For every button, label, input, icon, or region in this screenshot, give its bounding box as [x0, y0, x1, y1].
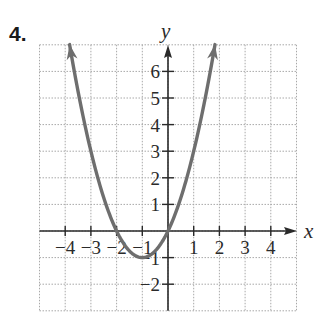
tick-marks: −4−3−2−11234−2−1123456 — [55, 61, 276, 295]
x-tick-label: 4 — [266, 237, 276, 258]
y-tick-label: 1 — [151, 194, 161, 215]
x-tick-label: 1 — [189, 237, 199, 258]
y-axis-label: y — [159, 19, 171, 43]
x-tick-label: −2 — [106, 237, 126, 258]
x-tick-label: −4 — [55, 237, 76, 258]
y-tick-label: 6 — [151, 61, 161, 82]
y-tick-label: 3 — [151, 141, 161, 162]
y-tick-label: −2 — [140, 274, 160, 295]
x-axis-label: x — [303, 219, 314, 243]
x-tick-label: 2 — [215, 237, 225, 258]
y-tick-label: 5 — [151, 88, 161, 109]
y-tick-label: 2 — [151, 168, 161, 189]
graph: −4−3−2−11234−2−1123456 x y — [0, 0, 324, 333]
y-tick-label: 4 — [151, 115, 161, 136]
x-tick-label: −3 — [81, 237, 101, 258]
x-tick-label: 3 — [240, 237, 250, 258]
